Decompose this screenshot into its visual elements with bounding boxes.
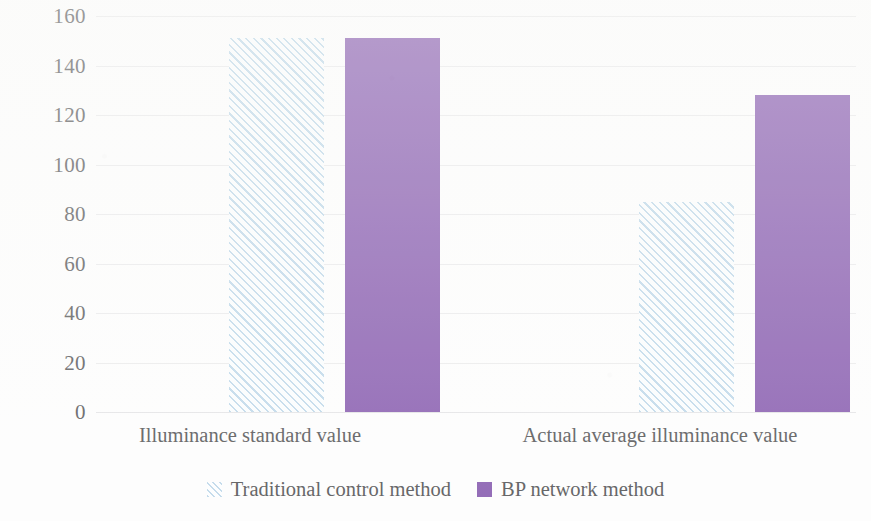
bar-0-0 xyxy=(229,38,324,412)
hatched-swatch-icon xyxy=(207,482,222,497)
gridline-120 xyxy=(96,115,856,116)
y-axis-tick-label-100: 100 xyxy=(6,152,86,177)
chart-figure: 160140120100806040200 Illuminance standa… xyxy=(0,0,871,521)
bar-1-1 xyxy=(755,95,850,412)
y-axis-tick-label-20: 20 xyxy=(6,350,86,375)
y-axis: 160140120100806040200 xyxy=(0,16,86,412)
gridline-60 xyxy=(96,264,856,265)
gridline-100 xyxy=(96,165,856,166)
y-axis-tick-label-80: 80 xyxy=(6,202,86,227)
gridline-140 xyxy=(96,66,856,67)
bar-1-0 xyxy=(639,202,734,412)
plot-area xyxy=(96,16,856,412)
gridline-80 xyxy=(96,214,856,215)
chart-legend: Traditional control method BP network me… xyxy=(0,478,871,501)
legend-item-bp-network-method: BP network method xyxy=(477,478,664,501)
y-axis-tick-label-160: 160 xyxy=(6,4,86,29)
gridline-160 xyxy=(96,16,856,17)
x-axis-category-label-0: Illuminance standard value xyxy=(60,424,440,447)
legend-label-bp-network-method: BP network method xyxy=(501,478,664,501)
solid-swatch-icon xyxy=(477,482,492,497)
gridline-20 xyxy=(96,363,856,364)
gridline-40 xyxy=(96,313,856,314)
y-axis-tick-label-0: 0 xyxy=(6,400,86,425)
y-axis-tick-label-40: 40 xyxy=(6,301,86,326)
gridline-0 xyxy=(96,412,856,413)
legend-item-traditional-control-method: Traditional control method xyxy=(207,478,451,501)
legend-label-traditional-control-method: Traditional control method xyxy=(231,478,451,501)
y-axis-tick-label-140: 140 xyxy=(6,53,86,78)
y-axis-tick-label-60: 60 xyxy=(6,251,86,276)
x-axis-category-label-1: Actual average illuminance value xyxy=(460,424,860,447)
y-axis-tick-label-120: 120 xyxy=(6,103,86,128)
bar-0-1 xyxy=(345,38,440,412)
